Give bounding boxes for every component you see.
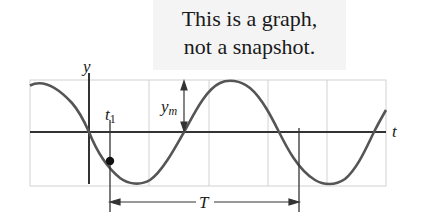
y-axis-label: y xyxy=(81,57,91,76)
amplitude-label: ym xyxy=(159,97,178,118)
t-axis-label: t xyxy=(392,122,398,141)
sine-wave-graph: y t t1 ym T xyxy=(0,0,423,218)
amplitude-arrow xyxy=(181,81,187,131)
t1-label: t1 xyxy=(105,105,116,126)
period-label: T xyxy=(199,193,210,212)
t1-point xyxy=(106,157,114,165)
